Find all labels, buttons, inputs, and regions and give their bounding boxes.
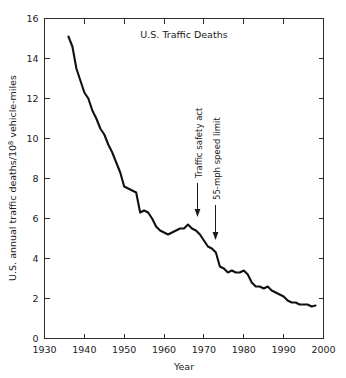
x-axis-tick-labels: 19301940195019601970198019902000 [32,344,335,355]
y-tick-label-12: 12 [26,93,38,104]
y-axis-ticks [45,19,324,339]
annotation-arrow-head-traffic-safety-act [195,209,201,217]
data-series-traffic-deaths [68,37,315,307]
x-tick-label-1990: 1990 [272,344,296,355]
y-tick-label-4: 4 [32,253,38,264]
y-tick-label-14: 14 [26,53,38,64]
traffic-deaths-chart-figure: 0246810121416 19301940195019601970198019… [0,0,346,378]
x-axis-title: Year [173,361,194,372]
annotation-traffic-safety-act: Traffic safety act [194,107,204,217]
x-tick-label-1950: 1950 [112,344,136,355]
x-axis-ticks [45,19,324,339]
y-axis-title-main: U.S. annual traffic deaths/10 [7,145,18,281]
y-axis-tick-labels: 0246810121416 [26,13,38,344]
y-tick-label-10: 10 [26,133,38,144]
x-tick-label-1960: 1960 [152,344,176,355]
annotation-label-speed-limit: 55-mph speed limit [212,117,222,200]
chart-title-group: U.S. Traffic Deaths [140,29,227,40]
annotation-speed-limit: 55-mph speed limit [212,117,222,240]
x-tick-label-1940: 1940 [72,344,96,355]
y-axis-title-group: U.S. annual traffic deaths/108 vehicle-m… [7,75,18,281]
annotation-label-traffic-safety-act: Traffic safety act [194,107,204,179]
y-axis-title-tail: vehicle-miles [7,75,18,141]
chart-title: U.S. Traffic Deaths [140,29,227,40]
x-tick-label-1980: 1980 [232,344,256,355]
x-tick-label-1930: 1930 [32,344,56,355]
y-tick-label-0: 0 [32,333,38,344]
y-axis-title: U.S. annual traffic deaths/108 vehicle-m… [7,75,18,281]
y-tick-label-2: 2 [32,293,38,304]
x-tick-label-1970: 1970 [192,344,216,355]
x-axis-title-group: Year [173,361,194,372]
plot-frame [45,19,324,339]
annotation-arrow-head-speed-limit [213,232,219,240]
y-tick-label-6: 6 [32,213,38,224]
chart-canvas: 0246810121416 19301940195019601970198019… [0,0,346,378]
y-tick-label-8: 8 [32,173,38,184]
y-tick-label-16: 16 [26,13,38,24]
data-line-traffic-deaths [68,37,315,307]
x-tick-label-2000: 2000 [311,344,335,355]
